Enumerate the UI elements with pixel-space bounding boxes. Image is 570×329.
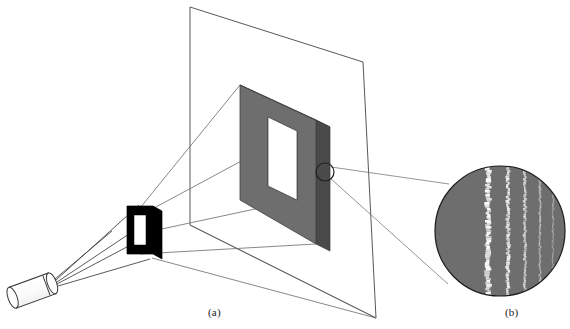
caption-panel-b: (b) xyxy=(505,306,518,318)
diffraction-figure: (a) (b) xyxy=(0,0,570,329)
laser-ray xyxy=(56,205,139,280)
laser-body xyxy=(5,271,60,309)
laser-ray xyxy=(55,231,112,279)
slab-right-side-face xyxy=(316,120,330,251)
aperture-plate-group xyxy=(127,206,162,259)
magnified-fringe-view xyxy=(429,161,570,301)
slab-window-opening xyxy=(268,117,297,200)
aperture-slot-opening xyxy=(134,215,146,245)
caption-panel-a: (a) xyxy=(208,306,221,318)
diffraction-scene-svg xyxy=(0,0,570,329)
aperture-side-face xyxy=(153,206,162,259)
